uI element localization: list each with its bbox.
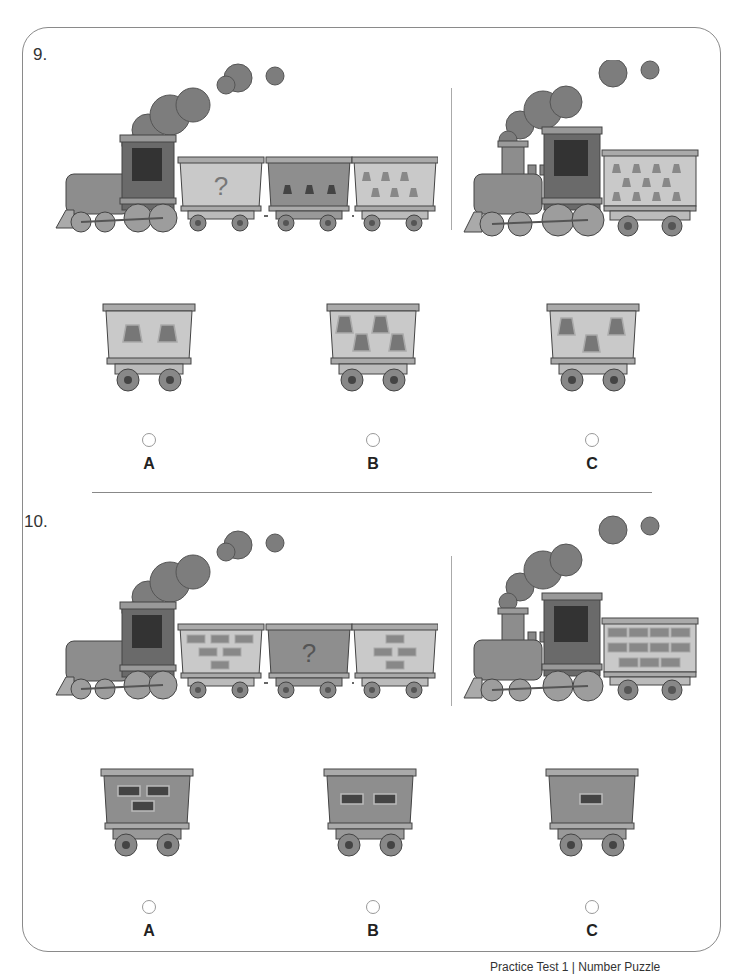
train-sequence-image: ?	[48, 60, 438, 240]
radio-option-b[interactable]	[366, 433, 380, 447]
svg-text:?: ?	[214, 171, 228, 201]
radio-option-b[interactable]	[366, 900, 380, 914]
page-footer: Practice Test 1 | Number Puzzle	[490, 960, 660, 974]
radio-option-c[interactable]	[585, 900, 599, 914]
car-light-4-bricks-icon	[352, 624, 438, 698]
car-light-11-bricks-icon	[602, 618, 698, 700]
sequence-train: ?	[48, 527, 438, 707]
option-a[interactable]: A	[89, 900, 209, 940]
question-number: 9.	[33, 45, 47, 65]
option-c[interactable]: C	[532, 900, 652, 940]
divider-vertical	[451, 88, 452, 230]
option-c[interactable]: C	[532, 433, 652, 473]
example-train	[458, 512, 703, 702]
example-train	[458, 60, 703, 240]
option-c-car	[544, 767, 640, 857]
option-label: A	[89, 455, 209, 473]
locomotive-icon	[56, 135, 177, 232]
divider-vertical	[451, 556, 452, 706]
car-2-bricks-icon	[322, 767, 418, 857]
car-question-icon: ?	[266, 624, 352, 698]
divider-horizontal	[92, 492, 652, 493]
car-question-icon: ?	[178, 157, 264, 231]
sequence-train: ?	[48, 60, 438, 240]
option-b-car	[325, 302, 421, 392]
locomotive-icon	[56, 602, 177, 699]
train-example-image	[458, 512, 703, 702]
option-b[interactable]: B	[313, 900, 433, 940]
car-light-6-trapezoids-icon	[352, 157, 438, 231]
svg-text:?: ?	[302, 638, 316, 668]
radio-option-c[interactable]	[585, 433, 599, 447]
locomotive-icon	[464, 127, 604, 236]
option-label: A	[89, 922, 209, 940]
option-label: C	[532, 455, 652, 473]
locomotive-icon	[464, 593, 603, 701]
option-label: B	[313, 455, 433, 473]
car-3-trapezoids-icon	[545, 302, 641, 392]
train-sequence-image: ?	[48, 527, 438, 707]
car-2-trapezoids-icon	[101, 302, 197, 392]
car-1-brick-icon	[544, 767, 640, 857]
radio-option-a[interactable]	[142, 900, 156, 914]
car-dark-3-trapezoids-icon	[266, 157, 352, 231]
radio-option-a[interactable]	[142, 433, 156, 447]
car-4-trapezoids-icon	[325, 302, 421, 392]
option-c-car	[545, 302, 641, 392]
car-light-11-trapezoids-icon	[602, 150, 698, 236]
train-example-image	[458, 60, 703, 240]
question-number: 10.	[24, 512, 48, 532]
car-light-6-bricks-icon	[178, 624, 264, 698]
option-a[interactable]: A	[89, 433, 209, 473]
option-label: B	[313, 922, 433, 940]
option-label: C	[532, 922, 652, 940]
car-3-bricks-icon	[99, 767, 195, 857]
option-a-car	[99, 767, 195, 857]
option-b[interactable]: B	[313, 433, 433, 473]
option-a-car	[101, 302, 197, 392]
option-b-car	[322, 767, 418, 857]
